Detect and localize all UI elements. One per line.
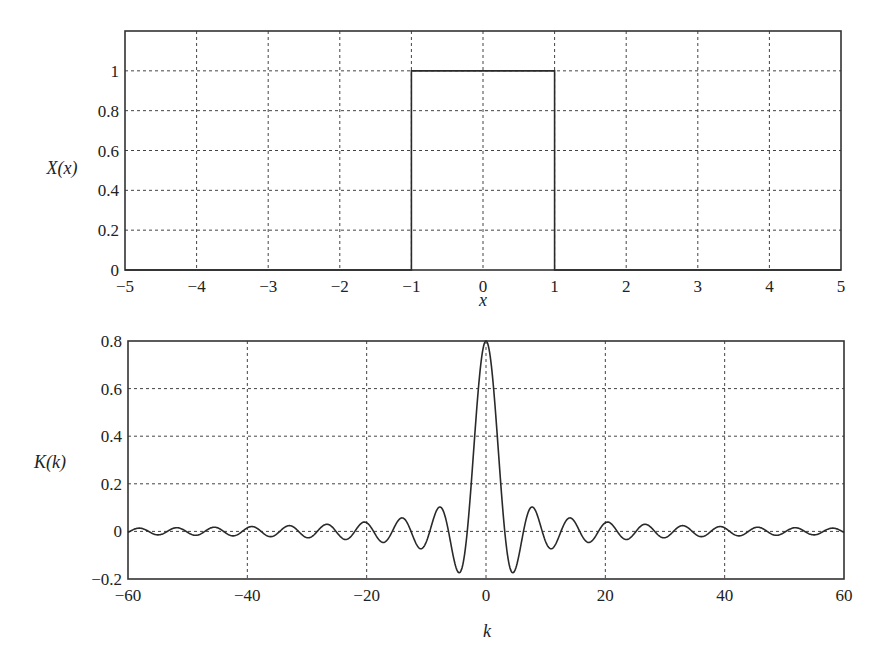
y-tick-labels: −0.200.20.40.60.8 (91, 332, 122, 589)
y-tick-labels: 00.20.40.60.81 (98, 62, 120, 280)
axes-frame (128, 341, 844, 579)
plot-rect-pulse: −5−4−3−2−1012345 00.20.40.60.81 x X(x) (46, 31, 846, 310)
x-tick-label: 5 (837, 277, 846, 296)
grid (125, 31, 841, 270)
x-tick-label: −2 (331, 277, 349, 296)
y-axis-label: X(x) (46, 158, 78, 179)
x-tick-label: −3 (259, 277, 277, 296)
y-tick-label: 0.6 (101, 380, 122, 399)
x-tick-label: 0 (482, 586, 491, 605)
y-tick-label: −0.2 (91, 570, 122, 589)
x-axis-label: x (478, 290, 487, 310)
x-tick-label: 2 (622, 277, 631, 296)
y-tick-label: 0.8 (98, 102, 119, 121)
y-tick-label: 0 (114, 522, 123, 541)
x-tick-label: 3 (694, 277, 703, 296)
x-tick-label: 20 (597, 586, 614, 605)
x-tick-label: 1 (550, 277, 559, 296)
y-tick-label: 0.2 (98, 221, 119, 240)
plot-sinc: −60−40−200204060 −0.200.20.40.60.8 k K(k… (33, 332, 852, 641)
x-tick-label: 4 (765, 277, 774, 296)
y-axis-label: K(k) (33, 452, 66, 473)
x-axis-label: k (483, 621, 492, 641)
x-tick-label: −4 (188, 277, 207, 296)
x-tick-label: −1 (402, 277, 420, 296)
y-tick-label: 0.4 (98, 181, 120, 200)
y-tick-label: 0.8 (101, 332, 122, 351)
x-tick-label: −40 (234, 586, 261, 605)
y-tick-label: 0.2 (101, 475, 122, 494)
grid (128, 341, 844, 579)
y-tick-label: 0 (111, 261, 120, 280)
y-tick-label: 1 (111, 62, 120, 81)
y-tick-label: 0.6 (98, 142, 119, 161)
x-tick-labels: −60−40−200204060 (115, 586, 853, 605)
x-tick-label: −20 (353, 586, 380, 605)
y-tick-label: 0.4 (101, 427, 123, 446)
x-tick-label: 60 (836, 586, 853, 605)
figure: −5−4−3−2−1012345 00.20.40.60.81 x X(x) −… (0, 0, 879, 668)
x-tick-label: 40 (716, 586, 733, 605)
